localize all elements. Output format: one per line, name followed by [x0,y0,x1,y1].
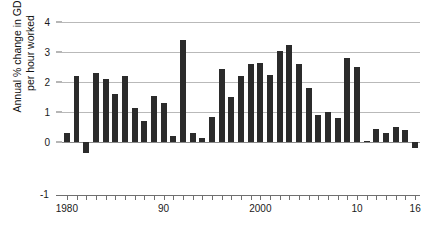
bar [228,97,234,142]
x-tick-mark [347,195,348,200]
x-tick-mark [77,195,78,200]
x-tick-mark [357,195,358,200]
y-tick-mark-minus-one [56,195,62,196]
bar [315,115,321,142]
bar [412,142,418,148]
y-axis: 43210 [0,22,58,172]
bar [373,129,379,143]
x-tick-mark [328,195,329,200]
x-tick-mark [270,195,271,200]
x-tick-mark [164,195,165,200]
bar [170,136,176,142]
x-tick-mark [173,195,174,200]
x-tick-mark [338,195,339,200]
x-tick-mark [405,195,406,200]
plot-area [62,22,420,172]
bar [364,141,370,143]
bar [393,127,399,142]
bar [122,76,128,142]
x-tick-mark [415,195,416,200]
bar [344,58,350,142]
x-tick-mark [212,195,213,200]
bar [64,133,70,142]
bar [402,130,408,142]
x-tick-mark [309,195,310,200]
x-tick-mark [367,195,368,200]
x-tick-mark [202,195,203,200]
y-tick-label: 2 [44,77,50,88]
x-tick-mark [251,195,252,200]
x-tick-mark [318,195,319,200]
bar [267,75,273,143]
bar [112,94,118,142]
x-tick-label: 90 [158,203,169,214]
bar [161,103,167,142]
x-tick-mark [280,195,281,200]
x-tick-mark [241,195,242,200]
bar [325,112,331,142]
bar [354,67,360,142]
x-tick-mark [67,195,68,200]
bar [141,121,147,142]
bar [383,133,389,142]
bar [219,69,225,143]
bar [277,51,283,143]
x-tick-mark [154,195,155,200]
bar [180,40,186,142]
x-tick-mark [106,195,107,200]
bar [190,133,196,142]
y-tick-label: 3 [44,47,50,58]
x-tick-mark [96,195,97,200]
y-tick-label: 1 [44,107,50,118]
bar [335,118,341,142]
x-tick-label: 10 [352,203,363,214]
productivity-bar-chart: Annual % change in GDP per hour worked 4… [0,0,428,234]
bar [306,88,312,142]
bar [199,138,205,143]
x-tick-mark [396,195,397,200]
bar [151,96,157,143]
bar [74,76,80,142]
bars-layer [62,22,420,172]
bar [83,142,89,153]
bar [296,64,302,142]
x-tick-mark [376,195,377,200]
bar [257,63,263,143]
x-tick-mark [231,195,232,200]
bar [238,76,244,142]
x-tick-mark [135,195,136,200]
x-tick-mark [193,195,194,200]
bar [248,64,254,142]
x-tick-label: 1980 [56,203,78,214]
bar [286,45,292,143]
bar [93,73,99,142]
x-tick-mark [115,195,116,200]
y-tick-label: 4 [44,17,50,28]
x-axis-ticks [62,195,420,201]
x-tick-label: 16 [410,203,421,214]
x-axis-labels: 19809020001016 [62,203,420,219]
x-tick-mark [144,195,145,200]
bar [132,108,138,143]
x-tick-mark [386,195,387,200]
bar [103,79,109,142]
x-tick-label: 2000 [249,203,271,214]
bar [209,117,215,143]
x-tick-mark [289,195,290,200]
x-tick-mark [125,195,126,200]
y-tick-label: 0 [44,137,50,148]
y-tick-label-minus-one: -1 [40,189,49,200]
x-tick-mark [86,195,87,200]
x-tick-mark [299,195,300,200]
x-tick-mark [260,195,261,200]
x-tick-mark [222,195,223,200]
x-tick-mark [183,195,184,200]
